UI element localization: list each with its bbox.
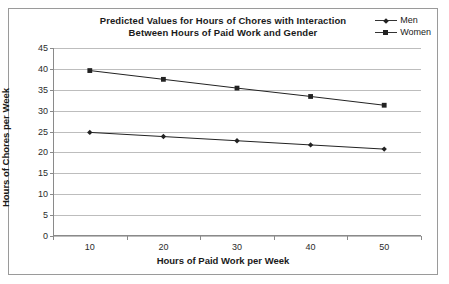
y-tick-label: 25 [38, 127, 48, 137]
x-tick-mark [274, 236, 275, 240]
chart-title-line-1: Predicted Values for Hours of Chores wit… [9, 15, 437, 27]
y-tick-label: 10 [38, 189, 48, 199]
y-tick-label: 45 [38, 43, 48, 53]
data-point-women [308, 94, 313, 99]
y-tick-label: 5 [43, 210, 48, 220]
y-axis-title: Hours of Chores per Week [0, 87, 11, 206]
data-point-women [382, 103, 387, 108]
data-point-men [161, 134, 166, 139]
chart-frame: Predicted Values for Hours of Chores wit… [8, 8, 438, 275]
data-point-men [382, 146, 387, 151]
y-tick-label: 15 [38, 168, 48, 178]
x-tick-mark [421, 236, 422, 240]
legend-label-men: Men [400, 15, 418, 26]
y-tick-label: 30 [38, 106, 48, 116]
data-point-men [87, 130, 92, 135]
x-axis-title: Hours of Paid Work per Week [9, 255, 437, 266]
legend-item-men[interactable]: Men [375, 15, 431, 26]
x-tick-label: 10 [85, 242, 95, 252]
legend-label-women: Women [400, 27, 431, 38]
x-tick-mark [200, 236, 201, 240]
x-tick-label: 20 [158, 242, 168, 252]
x-tick-label: 30 [232, 242, 242, 252]
legend-item-women[interactable]: Women [375, 27, 431, 38]
y-tick-label: 20 [38, 147, 48, 157]
y-tick-label: 40 [38, 64, 48, 74]
x-tick-mark [53, 236, 54, 240]
legend-marker-diamond-icon [375, 16, 397, 25]
series-layer [53, 48, 421, 236]
legend-marker-square-icon [375, 28, 397, 37]
x-tick-label: 50 [379, 242, 389, 252]
y-tick-label: 0 [43, 231, 48, 241]
gridline [53, 236, 421, 237]
x-tick-label: 40 [306, 242, 316, 252]
data-point-men [308, 142, 313, 147]
data-point-women [87, 68, 92, 73]
chart-legend: Men Women [375, 15, 431, 39]
x-tick-mark [127, 236, 128, 240]
y-tick-label: 35 [38, 85, 48, 95]
x-tick-mark [347, 236, 348, 240]
chart-title-line-2: Between Hours of Paid Work and Gender [9, 27, 437, 39]
plot-area: 051015202530354045 1020304050 [53, 48, 421, 236]
data-point-men [234, 138, 239, 143]
data-point-women [161, 77, 166, 82]
data-point-women [235, 86, 240, 91]
chart-title: Predicted Values for Hours of Chores wit… [9, 15, 437, 39]
